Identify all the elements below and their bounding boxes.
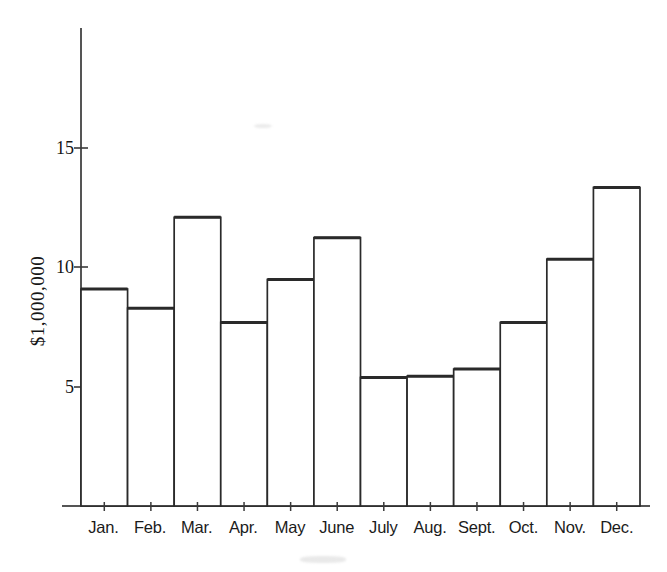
scan-artifact-smudge bbox=[300, 556, 346, 563]
x-tick-label-nov: Nov. bbox=[547, 512, 594, 546]
x-tick-label-aug: Aug. bbox=[407, 512, 454, 546]
x-tick-label-jan: Jan. bbox=[80, 512, 127, 546]
bar-series-group bbox=[81, 187, 640, 506]
x-tick-label-mar: Mar. bbox=[173, 512, 220, 546]
x-axis-tick-labels: Jan. Feb. Mar. Apr. May June July Aug. S… bbox=[80, 512, 640, 546]
x-tick-label-sept: Sept. bbox=[453, 512, 500, 546]
bar-oct bbox=[500, 322, 547, 506]
bar-feb bbox=[128, 308, 175, 506]
x-tick-label-june: June bbox=[313, 512, 360, 546]
bar-june bbox=[314, 238, 361, 506]
bar-may bbox=[267, 279, 314, 506]
x-tick-label-apr: Apr. bbox=[220, 512, 267, 546]
bar-sept bbox=[454, 369, 501, 506]
bar-jan bbox=[81, 289, 128, 506]
x-tick-label-feb: Feb. bbox=[127, 512, 174, 546]
bar-mar bbox=[174, 217, 221, 506]
x-tick-label-oct: Oct. bbox=[500, 512, 547, 546]
x-tick-label-may: May bbox=[267, 512, 314, 546]
scan-artifact-speck bbox=[254, 124, 272, 128]
plot-area bbox=[0, 0, 667, 572]
x-tick-label-dec: Dec. bbox=[593, 512, 640, 546]
bar-dec bbox=[593, 187, 640, 506]
bar-july bbox=[361, 377, 408, 506]
bar-aug bbox=[407, 376, 454, 506]
bar-nov bbox=[547, 259, 594, 506]
bar-apr bbox=[221, 322, 268, 506]
bar-chart-figure: $1,000,000 15 10 5 Jan. Feb. Mar. Apr. M… bbox=[0, 0, 667, 572]
x-tick-label-july: July bbox=[360, 512, 407, 546]
